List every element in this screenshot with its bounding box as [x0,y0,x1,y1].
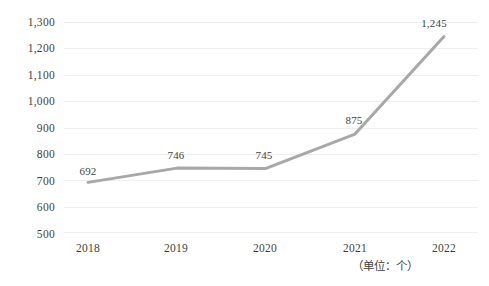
x-axis-tick-label: 2019 [164,242,188,254]
x-axis-tick-label: 2018 [76,242,100,254]
unit-annotation: （单位：个） [352,260,418,273]
data-label: 745 [255,150,272,161]
x-axis-tick-label: 2022 [432,242,456,254]
data-label: 692 [79,166,96,177]
data-label: 746 [167,150,184,161]
x-axis-tick-label: 2021 [343,242,367,254]
line-chart: 1,300 1,200 1,100 1,000 900 800 700 600 … [0,0,489,286]
data-label: 875 [345,115,362,126]
series-line [0,0,489,286]
x-axis-tick-label: 2020 [253,242,277,254]
data-label: 1,245 [421,18,447,29]
